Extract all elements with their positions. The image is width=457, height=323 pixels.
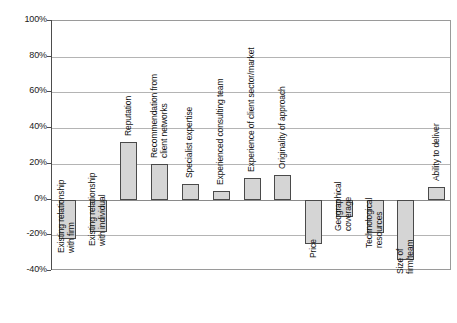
category-label: Geographicalcoverage: [334, 182, 353, 231]
y-axis-line: [51, 20, 52, 270]
gridline-0: [52, 200, 450, 201]
bar: [151, 164, 168, 200]
bar: [428, 187, 445, 200]
y-tick-label: -40%: [0, 265, 47, 274]
y-tick-mark: [47, 163, 51, 164]
category-label: Originality of approach: [278, 86, 288, 169]
bar: [274, 175, 291, 200]
bar: [213, 191, 230, 200]
y-tick-mark: [47, 56, 51, 57]
gridline-neg20: [52, 235, 450, 236]
bar-chart: 100%80%60%40%20%0%-20%-40% Existing rela…: [0, 0, 457, 323]
bar: [244, 178, 261, 199]
category-label: Price: [309, 239, 319, 258]
y-tick-label: 40%: [0, 122, 47, 131]
y-tick-mark: [47, 91, 51, 92]
category-label: Specialist expertise: [185, 106, 195, 177]
category-label: Existing relationshipwith individual: [88, 172, 107, 246]
bar: [305, 200, 322, 245]
category-label: Reputation: [124, 96, 134, 136]
category-label: Ability to deliver: [432, 123, 442, 181]
y-tick-label: -20%: [0, 229, 47, 238]
category-label: Experience of client sector/market: [247, 48, 257, 173]
category-label: Existing relationshipwith firm: [57, 179, 76, 253]
category-label: Technologicalresources: [365, 197, 384, 247]
y-tick-label: 80%: [0, 51, 47, 60]
y-tick-mark: [47, 270, 51, 271]
bar: [182, 184, 199, 200]
category-label: Experienced consulting team: [216, 78, 226, 184]
y-tick-label: 100%: [0, 15, 47, 24]
y-tick-label: 0%: [0, 194, 47, 203]
category-label: Recommendation fromclient networks: [150, 74, 169, 158]
y-tick-label: 60%: [0, 86, 47, 95]
y-tick-label: 20%: [0, 158, 47, 167]
y-tick-mark: [47, 127, 51, 128]
y-tick-mark: [47, 199, 51, 200]
bar: [120, 142, 137, 199]
y-tick-mark: [47, 20, 51, 21]
y-tick-mark: [47, 234, 51, 235]
category-label: Size offirm/team: [396, 240, 415, 275]
